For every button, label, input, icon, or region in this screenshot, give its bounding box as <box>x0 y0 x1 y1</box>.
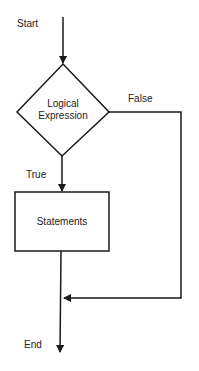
true-label: True <box>26 169 46 181</box>
decision-label-line2: Expression <box>28 110 98 122</box>
end-label: End <box>24 339 42 351</box>
end-arrow <box>60 251 61 352</box>
flowchart-canvas <box>0 0 199 371</box>
start-label: Start <box>17 18 38 30</box>
false-label: False <box>128 93 152 105</box>
decision-label-line1: Logical <box>28 98 98 110</box>
process-label: Statements <box>15 216 109 228</box>
